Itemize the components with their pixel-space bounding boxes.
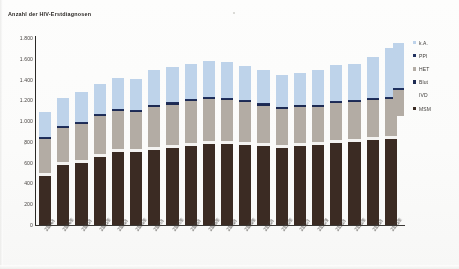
bar-segment-ka [294, 73, 306, 104]
bar-segment-msm [312, 145, 324, 225]
bar-segment-ka [75, 92, 87, 122]
bar-segment-msm [276, 148, 288, 225]
bar[interactable] [130, 79, 142, 225]
y-axis-tick: 400 [5, 180, 33, 186]
bar-segment-het [239, 102, 251, 141]
y-axis-tick: 1.200 [5, 97, 33, 103]
legend-swatch-icon [413, 41, 416, 44]
bar-segment-ka [148, 70, 160, 104]
bar[interactable] [112, 78, 124, 225]
legend-label: HET [419, 66, 429, 72]
y-axis-tick: 0 [5, 222, 33, 228]
legend-item-ka[interactable]: k.A. [413, 36, 459, 49]
bar-segment-het [185, 101, 197, 143]
legend-item-ppi[interactable]: PPI [413, 49, 459, 62]
bar-segment-ka [185, 64, 197, 99]
bar[interactable] [148, 70, 160, 225]
y-axis-tick: 800 [5, 139, 33, 145]
bar-segment-het [367, 100, 379, 136]
bar[interactable] [294, 73, 306, 225]
legend-label: IVD [419, 92, 428, 98]
bar-segment-ka [39, 112, 51, 137]
bar[interactable] [185, 64, 197, 225]
bar[interactable] [239, 66, 251, 225]
bar-segment-het [148, 107, 160, 148]
bar-segment-ka [330, 65, 342, 101]
bar-segment-ka [257, 70, 269, 103]
bar-segment-msm [330, 143, 342, 225]
chart-plot-area: 1.8001.6001.4001.2001.0008006004002000 2… [0, 0, 459, 269]
legend-item-ivd[interactable]: IVD [413, 89, 459, 102]
legend-swatch-icon [413, 67, 416, 70]
bar-segment-ka [130, 79, 142, 110]
bar-segment-ka [221, 62, 233, 98]
bar-segment-het [221, 100, 233, 141]
bar[interactable] [367, 57, 379, 225]
bar-segment-msm [112, 152, 124, 225]
legend-label: MSM [419, 106, 431, 112]
legend-label: Blut [419, 79, 428, 85]
y-axis-tick: 600 [5, 160, 33, 166]
bar-segment-het [330, 103, 342, 139]
legend-swatch-icon [413, 54, 416, 57]
bar-segment-msm [166, 148, 178, 225]
bar-segment-ka [112, 78, 124, 109]
legend-item-blut[interactable]: Blut [413, 76, 459, 89]
bar-segment-het [166, 105, 178, 146]
legend-swatch-icon [413, 107, 416, 110]
y-axis-tick: 1.600 [5, 56, 33, 62]
bar-segment-msm [221, 144, 233, 225]
bar-segment-msm [39, 176, 51, 225]
bar-segment-msm [130, 152, 142, 225]
bar-segment-het [203, 99, 215, 141]
bar-segment-het [75, 124, 87, 159]
bar-segment-ka [94, 84, 106, 114]
y-axis-tick-labels: 1.8001.6001.4001.2001.0008006004002000 [0, 0, 33, 269]
bar-segment-het [94, 116, 106, 154]
bar-segment-msm [185, 146, 197, 225]
legend-item-msm[interactable]: MSM [413, 102, 459, 115]
bar-segment-msm [348, 142, 360, 225]
bar-segment-het [112, 111, 124, 149]
y-axis-tick: 1.000 [5, 118, 33, 124]
bar-segment-het [348, 102, 360, 138]
legend-swatch-icon [413, 94, 416, 97]
bar[interactable] [39, 112, 51, 225]
bar-segment-msm [57, 165, 69, 225]
legend-reference-segment-ka [393, 43, 404, 88]
bar-segment-msm [385, 139, 397, 225]
bar-segment-msm [367, 140, 379, 225]
bar-segment-ka [348, 64, 360, 100]
bar-segment-ka [239, 66, 251, 100]
bar[interactable] [94, 84, 106, 225]
bar[interactable] [312, 70, 324, 225]
bar[interactable] [57, 98, 69, 225]
legend-reference-segment-het [393, 90, 404, 116]
bar-segment-msm [203, 144, 215, 225]
y-axis-tick: 200 [5, 201, 33, 207]
bar-segment-het [276, 109, 288, 145]
legend-label: PPI [419, 53, 427, 59]
bar[interactable] [330, 65, 342, 225]
bar-segment-msm [257, 146, 269, 225]
bar[interactable] [221, 62, 233, 225]
bar[interactable] [257, 70, 269, 225]
bar[interactable] [75, 92, 87, 225]
legend-item-het[interactable]: HET [413, 62, 459, 75]
bar-segment-msm [148, 150, 160, 225]
bar[interactable] [166, 67, 178, 225]
bar[interactable] [276, 75, 288, 225]
legend-reference-bar [393, 43, 404, 116]
bar[interactable] [348, 64, 360, 225]
bar-segment-msm [94, 157, 106, 225]
bar-segment-ka [312, 70, 324, 104]
bar-segment-het [130, 112, 142, 149]
chart-legend: k.A.PPIHETBlutIVDMSM [413, 36, 459, 115]
bar-segment-het [294, 107, 306, 143]
bar-segment-ka [203, 61, 215, 97]
bar-segment-ka [276, 75, 288, 106]
bar-segment-ka [166, 67, 178, 102]
legend-label: k.A. [419, 40, 428, 46]
bar[interactable] [203, 61, 215, 225]
bar-segment-msm [294, 146, 306, 225]
